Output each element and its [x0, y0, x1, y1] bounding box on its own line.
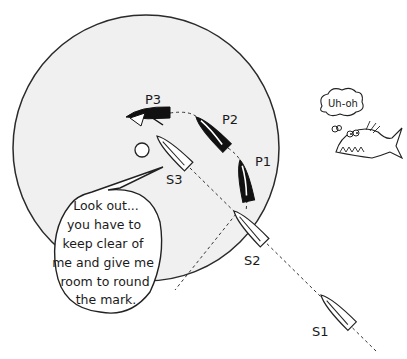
bubble-line-3: keep clear of [63, 236, 145, 251]
bubble-line-1: Look out... [73, 198, 139, 213]
label-s3: S3 [166, 172, 183, 187]
fish-cartoon: Uh-oh [321, 88, 402, 158]
fish-thought-text: Uh-oh [328, 98, 358, 109]
bubble-line-2: you have to [67, 217, 141, 232]
label-s1: S1 [312, 324, 329, 339]
fish-body [336, 128, 402, 158]
label-s2: S2 [244, 253, 261, 268]
bubble-line-4: me and give me [52, 255, 154, 270]
mark-buoy [135, 143, 149, 157]
label-p3: P3 [145, 92, 161, 107]
bubble-line-5: room to round [60, 274, 149, 289]
bubble-line-6: the mark. [76, 292, 137, 307]
sailing-rules-diagram: P3 P2 P1 S3 S2 S1 Look out... you have t… [0, 0, 407, 359]
label-p1: P1 [255, 154, 271, 169]
label-p2: P2 [222, 112, 238, 127]
